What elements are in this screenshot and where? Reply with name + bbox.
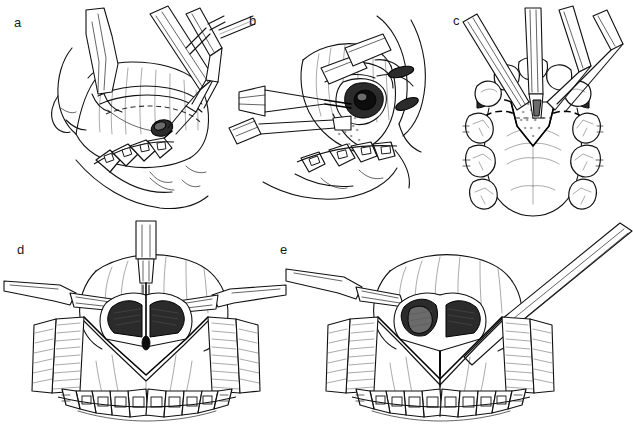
panel-d: d (0, 225, 290, 427)
panel-e-illustration (290, 225, 633, 427)
panel-label-e: e (280, 243, 287, 256)
panel-label-c: c (453, 14, 460, 27)
panel-label-d: d (17, 243, 24, 256)
panel-c-illustration (433, 0, 633, 225)
panel-c: c (433, 0, 633, 225)
panel-label-b: b (249, 14, 256, 27)
panel-a-illustration (0, 0, 225, 225)
panel-b: b (225, 0, 433, 225)
figure-container: a (0, 0, 633, 427)
panel-a: a (0, 0, 225, 225)
panel-label-a: a (14, 16, 21, 29)
panel-b-illustration (225, 0, 433, 225)
panel-e: e (290, 225, 633, 427)
panel-d-illustration (0, 225, 290, 427)
